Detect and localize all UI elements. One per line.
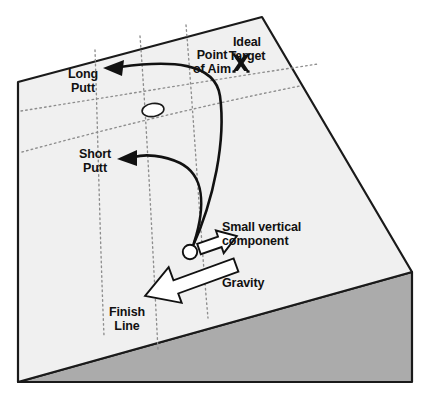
golf-ball-circle (183, 245, 197, 259)
label-finish-line: Finish Line (99, 306, 155, 333)
label-ideal-target: Ideal Target (216, 36, 278, 63)
label-short-putt: Short Putt (66, 148, 124, 175)
figure-canvas: Long Putt Short Putt Point of Aim Ideal … (0, 0, 427, 400)
label-long-putt: Long Putt (54, 68, 112, 95)
label-gravity: Gravity (222, 277, 282, 291)
label-small-vertical-component: Small vertical component (222, 221, 326, 248)
